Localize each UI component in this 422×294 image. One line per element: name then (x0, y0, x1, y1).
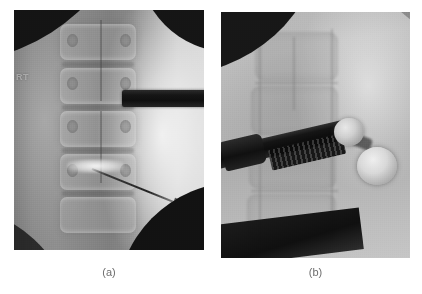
pedicle-shadow (120, 77, 131, 90)
xray-panel-a: RT (14, 10, 204, 250)
needle-hub (174, 197, 186, 205)
endplate-line (255, 82, 338, 84)
upper-spherical-marker (334, 118, 364, 146)
xray-image-a: RT (14, 10, 204, 250)
field-vignette-bottom-right (116, 182, 204, 250)
field-vignette-bottom-left (14, 204, 72, 250)
field-vignette-top-right (138, 10, 204, 52)
film-grain-overlay (14, 10, 204, 250)
disc-space (62, 148, 134, 153)
field-vignette-top-right (374, 12, 410, 38)
pedicle-shadow (120, 34, 131, 47)
radiopaque-instrument-bar (122, 90, 204, 107)
panel-caption-b: (b) (221, 266, 410, 278)
pedicle-shadow (120, 120, 131, 133)
endplate-line (251, 190, 338, 192)
xray-image-b (221, 12, 410, 258)
radiopaque-needle (92, 168, 174, 203)
figure-root: RT (0, 0, 422, 294)
laterality-marker-rt: RT (16, 72, 29, 82)
spinous-process-line (100, 20, 102, 102)
disc-space (62, 191, 134, 196)
vertebral-body (255, 32, 338, 81)
posterior-element-line (293, 37, 295, 111)
lower-spherical-marker (357, 147, 397, 185)
xray-panel-b (221, 12, 410, 258)
radiopaque-instrument-base (221, 207, 363, 258)
pedicle-shadow (67, 120, 78, 133)
pedicle-shadow (67, 77, 78, 90)
panel-caption-a: (a) (14, 266, 204, 278)
vertebral-body (60, 197, 136, 233)
disc-space (62, 62, 134, 67)
pedicle-shadow (67, 34, 78, 47)
